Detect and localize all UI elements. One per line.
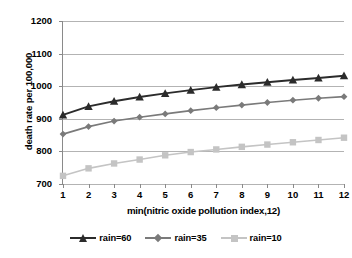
data-point-marker — [341, 93, 348, 100]
data-series-group — [63, 21, 344, 184]
x-axis-title: min(nitric oxide pollution index,12) — [63, 205, 344, 216]
data-point-marker — [162, 111, 169, 118]
x-tick-mark — [318, 184, 319, 188]
legend-marker-square-icon — [231, 235, 238, 242]
data-point-marker — [60, 131, 67, 138]
x-tick-label: 7 — [205, 190, 227, 200]
y-tick-label: 900 — [18, 114, 52, 124]
data-point-marker — [264, 141, 270, 147]
data-point-marker — [111, 118, 118, 125]
series-rain-35 — [60, 93, 348, 137]
x-tick-mark — [89, 184, 90, 188]
y-tick-label: 1000 — [18, 81, 52, 91]
legend-item-rain-60[interactable]: rain=60 — [70, 233, 131, 243]
series-rain-10 — [60, 135, 347, 180]
x-tick-label: 10 — [282, 190, 304, 200]
legend-item-rain-35[interactable]: rain=35 — [145, 233, 206, 243]
data-point-marker — [290, 97, 297, 104]
x-tick-label: 2 — [78, 190, 100, 200]
x-tick-label: 3 — [103, 190, 125, 200]
data-point-marker — [213, 146, 219, 152]
data-point-marker — [136, 156, 142, 162]
data-point-marker — [239, 144, 245, 150]
data-point-marker — [341, 135, 347, 141]
data-point-marker — [60, 173, 66, 179]
series-line — [63, 138, 344, 176]
gridline — [63, 184, 344, 185]
series-rain-60 — [59, 72, 348, 119]
x-tick-label: 1 — [52, 190, 74, 200]
data-point-marker — [238, 102, 245, 109]
y-tick-label: 700 — [18, 179, 52, 189]
y-tick-label: 1200 — [18, 16, 52, 26]
legend-label: rain=35 — [174, 233, 206, 243]
data-point-marker — [85, 165, 91, 171]
legend-marker-diamond-icon — [154, 234, 162, 242]
x-tick-label: 9 — [256, 190, 278, 200]
x-tick-mark — [114, 184, 115, 188]
data-point-marker — [315, 137, 321, 143]
x-tick-mark — [267, 184, 268, 188]
x-tick-label: 6 — [180, 190, 202, 200]
legend-marker-triangle-icon — [79, 234, 87, 242]
x-tick-mark — [191, 184, 192, 188]
data-point-marker — [315, 95, 322, 102]
data-point-marker — [85, 123, 92, 130]
data-point-marker — [162, 152, 168, 158]
x-tick-label: 11 — [307, 190, 329, 200]
x-tick-mark — [63, 184, 64, 188]
x-tick-label: 8 — [231, 190, 253, 200]
legend-label: rain=10 — [250, 233, 282, 243]
chart-legend: rain=60rain=35rain=10 — [0, 233, 352, 243]
legend-swatch — [221, 233, 247, 243]
x-tick-mark — [165, 184, 166, 188]
x-tick-mark — [216, 184, 217, 188]
x-tick-mark — [293, 184, 294, 188]
data-point-marker — [264, 99, 271, 106]
x-tick-mark — [140, 184, 141, 188]
legend-swatch — [70, 233, 96, 243]
y-tick-label: 800 — [18, 146, 52, 156]
y-tick-label: 1100 — [18, 49, 52, 59]
plot-area: 700800900100011001200 123456789101112 — [63, 21, 344, 184]
x-tick-mark — [344, 184, 345, 188]
legend-swatch — [145, 233, 171, 243]
data-point-marker — [290, 139, 296, 145]
y-axis-title: death rate per 100,000 — [23, 17, 34, 187]
x-tick-label: 5 — [154, 190, 176, 200]
x-tick-label: 12 — [333, 190, 352, 200]
x-tick-label: 4 — [129, 190, 151, 200]
data-point-marker — [213, 104, 220, 111]
data-point-marker — [136, 114, 143, 121]
legend-item-rain-10[interactable]: rain=10 — [221, 233, 282, 243]
x-tick-mark — [242, 184, 243, 188]
data-point-marker — [188, 149, 194, 155]
chart-container: death rate per 100,000 70080090010001100… — [0, 0, 352, 258]
data-point-marker — [187, 107, 194, 114]
legend-label: rain=60 — [99, 233, 131, 243]
data-point-marker — [111, 160, 117, 166]
